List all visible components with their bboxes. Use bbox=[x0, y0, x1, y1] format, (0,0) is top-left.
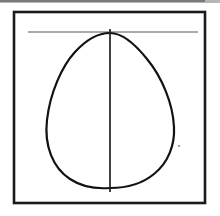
dust-speck-artifact bbox=[178, 145, 180, 147]
figure-canvas bbox=[0, 0, 220, 216]
top-scan-band-core bbox=[0, 0, 205, 2]
figure-svg bbox=[0, 0, 220, 216]
